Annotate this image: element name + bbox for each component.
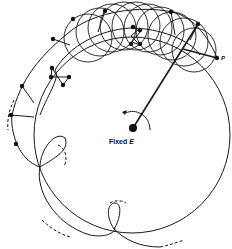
deferent-circle: [34, 37, 230, 233]
lower-path-left: [12, 115, 115, 236]
fixed-e-dot: [129, 124, 137, 132]
retrograde-loop-left: [51, 68, 69, 85]
fixed-e-label: Fixed E: [109, 138, 134, 145]
point-p-label: P: [221, 55, 226, 61]
lower-loop-bottom: [108, 203, 160, 247]
epicycle-diagram: Fixed E P: [0, 0, 232, 249]
radius-line: [133, 24, 198, 128]
planet-path: [12, 9, 217, 115]
